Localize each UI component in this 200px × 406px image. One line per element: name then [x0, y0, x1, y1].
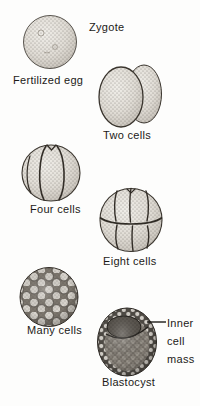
label-fertilized-egg: Fertilized egg — [13, 74, 83, 86]
label-inner-cell-mass-line-2: cell — [167, 332, 194, 350]
many-cells-illustration — [20, 268, 78, 327]
label-inner-cell-mass-line-3: mass — [167, 350, 194, 368]
label-zygote: Zygote — [89, 21, 124, 33]
embryo-development-diagram: Zygote Fertilized egg Two cells Four cel… — [0, 0, 200, 406]
two-cells-illustration — [99, 65, 162, 127]
four-cells-illustration — [22, 145, 80, 201]
label-inner-cell-mass: Inner cell mass — [167, 314, 194, 368]
label-many-cells: Many cells — [27, 324, 82, 336]
label-blastocyst: Blastocyst — [102, 376, 155, 388]
zygote-illustration — [24, 16, 77, 69]
blastocyst-illustration — [98, 308, 157, 376]
label-inner-cell-mass-line-1: Inner — [167, 314, 194, 332]
label-two-cells: Two cells — [103, 129, 151, 141]
eight-cells-illustration — [100, 189, 162, 252]
label-four-cells: Four cells — [30, 203, 81, 215]
label-eight-cells: Eight cells — [103, 255, 156, 267]
